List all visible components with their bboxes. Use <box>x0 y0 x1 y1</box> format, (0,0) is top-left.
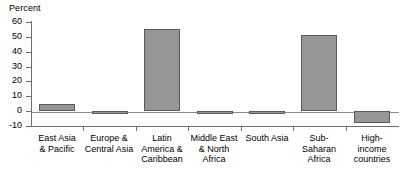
y-tick-mark <box>26 22 31 23</box>
bar <box>249 111 285 114</box>
bar <box>301 35 337 111</box>
x-tick-mark <box>188 127 189 131</box>
x-tick-mark <box>241 127 242 131</box>
bar <box>92 111 128 114</box>
bar <box>354 111 390 123</box>
y-tick-mark <box>26 111 31 112</box>
x-category-label: Latin America & Caribbean <box>136 133 188 165</box>
x-category-label: Sub- Saharan Africa <box>293 133 345 165</box>
y-tick-mark <box>26 67 31 68</box>
y-tick-label: 40 <box>0 46 22 56</box>
bar <box>197 111 233 114</box>
x-category-label: Europe & Central Asia <box>83 133 135 154</box>
x-category-label: East Asia & Pacific <box>31 133 83 154</box>
y-tick-mark <box>26 37 31 38</box>
y-tick-mark <box>26 52 31 53</box>
y-tick-label: 10 <box>0 90 22 100</box>
y-axis-title: Percent <box>9 3 41 13</box>
y-tick-label: 50 <box>0 31 22 41</box>
x-tick-mark <box>83 127 84 131</box>
bar <box>39 104 75 111</box>
x-axis-line <box>31 126 399 127</box>
x-tick-mark <box>136 127 137 131</box>
y-tick-mark <box>26 96 31 97</box>
y-tick-label: 60 <box>0 16 22 26</box>
y-tick-mark <box>26 81 31 82</box>
x-category-label: Middle East & North Africa <box>188 133 240 165</box>
y-tick-label: 20 <box>0 75 22 85</box>
y-tick-label: 30 <box>0 61 22 71</box>
x-tick-mark <box>346 127 347 131</box>
x-tick-mark <box>293 127 294 131</box>
x-category-label: High- income countries <box>346 133 398 165</box>
y-tick-mark <box>26 126 31 127</box>
y-tick-label: 0 <box>0 105 22 115</box>
bar-chart: Percent -100102030405060 East Asia & Pac… <box>0 0 406 170</box>
y-tick-label: -10 <box>0 120 22 130</box>
bar <box>144 29 180 111</box>
x-category-label: South Asia <box>241 133 293 144</box>
